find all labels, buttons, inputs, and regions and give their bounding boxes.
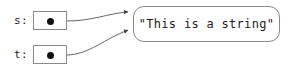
reference-box-t xyxy=(33,45,67,64)
reference-dot-icon xyxy=(47,18,54,25)
object-reference-diagram: s: t: "This is a string" xyxy=(0,0,290,73)
variable-label-s: s: xyxy=(14,15,28,26)
pointer-arrow-t xyxy=(67,30,128,55)
reference-box-s xyxy=(33,11,67,30)
pointer-arrow-s xyxy=(67,12,128,21)
variable-label-t: t: xyxy=(14,49,28,60)
string-object-node: "This is a string" xyxy=(133,6,280,42)
string-object-value: "This is a string" xyxy=(139,18,274,30)
reference-dot-icon xyxy=(47,52,54,59)
